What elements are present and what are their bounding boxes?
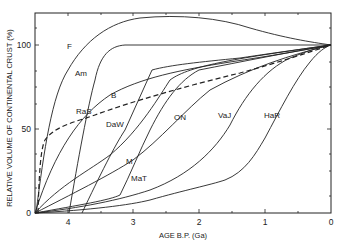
- label-Am: Am: [75, 69, 87, 78]
- x-tick-4: 4: [66, 217, 71, 227]
- label-F: F: [67, 42, 72, 51]
- x-tick-0: 0: [329, 217, 334, 227]
- label-M: M: [126, 157, 133, 166]
- label-MaT: MaT: [131, 174, 147, 183]
- curve-MaT: [82, 45, 331, 213]
- label-B: B: [111, 91, 116, 100]
- y-tick-0: 0: [26, 208, 31, 218]
- label-HaR: HaR: [264, 111, 280, 120]
- crust-growth-chart: 100 50 0 4 3 2 1 0 AGE B.P. (Ga) RELATIV…: [0, 0, 343, 243]
- y-axis-label: RELATIVE VOLUME OF CONTINENTAL CRUST (%): [5, 29, 14, 207]
- label-ON: ON: [174, 113, 186, 122]
- x-axis-label: AGE B.P. (Ga): [159, 231, 208, 240]
- label-DaW: DaW: [106, 120, 124, 129]
- y-tick-50: 50: [22, 124, 32, 134]
- label-RaS: RaS: [76, 107, 92, 116]
- y-tick-100: 100: [17, 40, 31, 50]
- x-tick-1: 1: [263, 217, 268, 227]
- label-VaJ: VaJ: [218, 111, 231, 120]
- x-tick-2: 2: [197, 217, 202, 227]
- x-tick-3: 3: [131, 217, 136, 227]
